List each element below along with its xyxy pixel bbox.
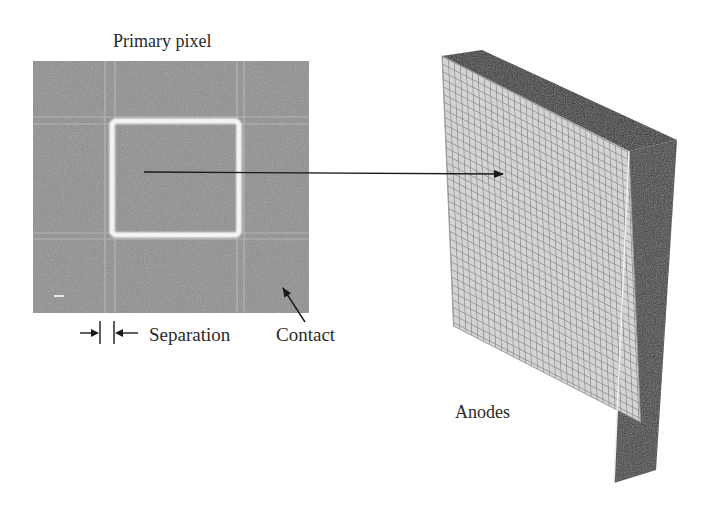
separation-label: Separation bbox=[149, 325, 230, 344]
pixel-micrograph bbox=[33, 61, 309, 313]
separation-arrows-icon bbox=[80, 321, 138, 344]
anodes-label: Anodes bbox=[455, 403, 510, 421]
contact-label: Contact bbox=[276, 325, 335, 344]
micrograph-background bbox=[33, 61, 309, 313]
primary-pixel-label: Primary pixel bbox=[113, 32, 211, 50]
figure-canvas bbox=[0, 0, 711, 510]
